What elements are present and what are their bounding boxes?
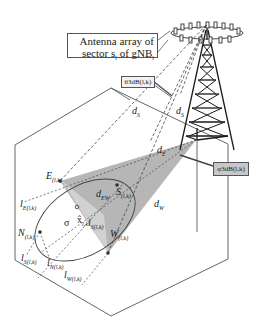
label-N: N(l,k) [18,228,35,240]
distance-dS-left: dS [132,106,140,118]
line-label-lN: lN(l,k) [47,258,64,270]
phi-3db-label: φ3dB(l,k) [213,162,249,176]
antenna-array-callout: Antenna array of sector sl of gNBl [67,33,158,58]
distance-dW: dW [154,199,164,211]
distance-dE: dE [157,145,166,157]
label-S: S(l,k) [116,187,131,199]
point-W [106,251,110,255]
line-label-lS-center: lS(l,k) [88,218,104,230]
label-E: E(l,k) [46,171,62,183]
label-sigma: σ [64,218,69,228]
label-W: W(l,k) [110,229,128,241]
distance-dEW: dEW [96,189,110,201]
distance-dS-right: dS [176,106,184,118]
line-label-lE: lE(l,k) [20,199,36,211]
antenna-callout-line1: Antenna array of [79,35,154,47]
point-N [38,230,42,234]
line-label-lS: lS(l,k) [21,253,37,265]
theta-3db-label: θ3dB(l,k) [121,76,155,88]
label-x-hat: x̂l,k [77,215,88,227]
line-label-lW: lW(l,k) [64,270,82,282]
antenna-callout-line2: sector sl of gNBl [82,47,154,59]
